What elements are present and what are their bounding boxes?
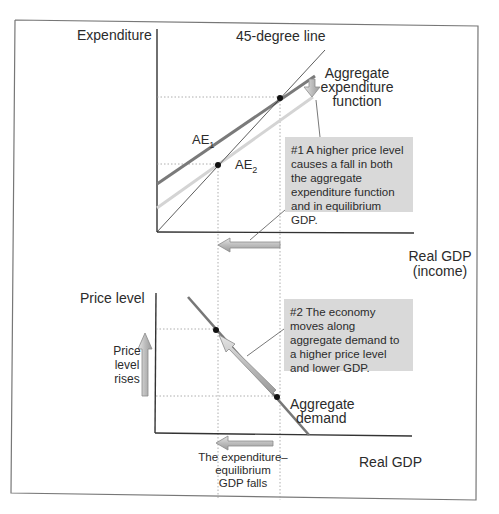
gdp-falls-label-3: GDP falls — [219, 477, 268, 489]
top-x-axis — [157, 232, 414, 233]
price-rises-label-1: Price — [113, 344, 141, 358]
equilibrium-point-e2 — [215, 162, 221, 168]
top-chart: Expenditure 45-degree line Aggregate exp… — [77, 27, 472, 500]
top-guide-lines — [157, 97, 280, 500]
line-45-label: 45-degree line — [236, 28, 326, 44]
point-initial — [274, 394, 280, 400]
ad-label-2: demand — [296, 410, 347, 426]
ae-function-label-3: function — [332, 93, 381, 109]
gdp-falls-label-1: The expenditure– — [198, 451, 288, 463]
bottom-x-axis-label: Real GDP — [359, 454, 422, 470]
equilibrium-point-e1 — [277, 95, 283, 101]
gdp-falls-arrow-top-icon — [218, 238, 280, 252]
callout-1-leader-2 — [250, 210, 285, 240]
ae1-label: AE1 — [192, 132, 214, 150]
price-rises-label-2: level — [115, 358, 140, 372]
gdp-falls-arrow-bottom-icon — [216, 436, 273, 450]
bottom-y-axis-label: Price level — [80, 290, 145, 306]
top-x-axis-label-1: Real GDP — [408, 248, 471, 264]
price-rises-label-3: rises — [114, 372, 139, 386]
bottom-x-axis — [155, 433, 412, 436]
bottom-guide-lines — [156, 329, 277, 396]
gdp-falls-label-2: equilibrium — [215, 464, 271, 476]
callout-2: #2 The economy moves along aggregate dem… — [284, 299, 413, 371]
price-rises-arrow-icon — [138, 333, 152, 396]
callout-1-leader — [316, 100, 320, 137]
movement-along-ad-arrow-icon — [219, 335, 276, 394]
top-y-axis-label: Expenditure — [77, 27, 152, 43]
top-x-axis-label-2: (income) — [413, 263, 467, 279]
ae2-label: AE2 — [235, 157, 257, 175]
figure: Expenditure 45-degree line Aggregate exp… — [0, 0, 499, 514]
callout-1: #1 A higher price level causes a fall in… — [285, 137, 413, 212]
bottom-y-axis — [155, 293, 156, 433]
callout-2-leader — [247, 329, 284, 356]
point-higher-price — [213, 327, 219, 333]
